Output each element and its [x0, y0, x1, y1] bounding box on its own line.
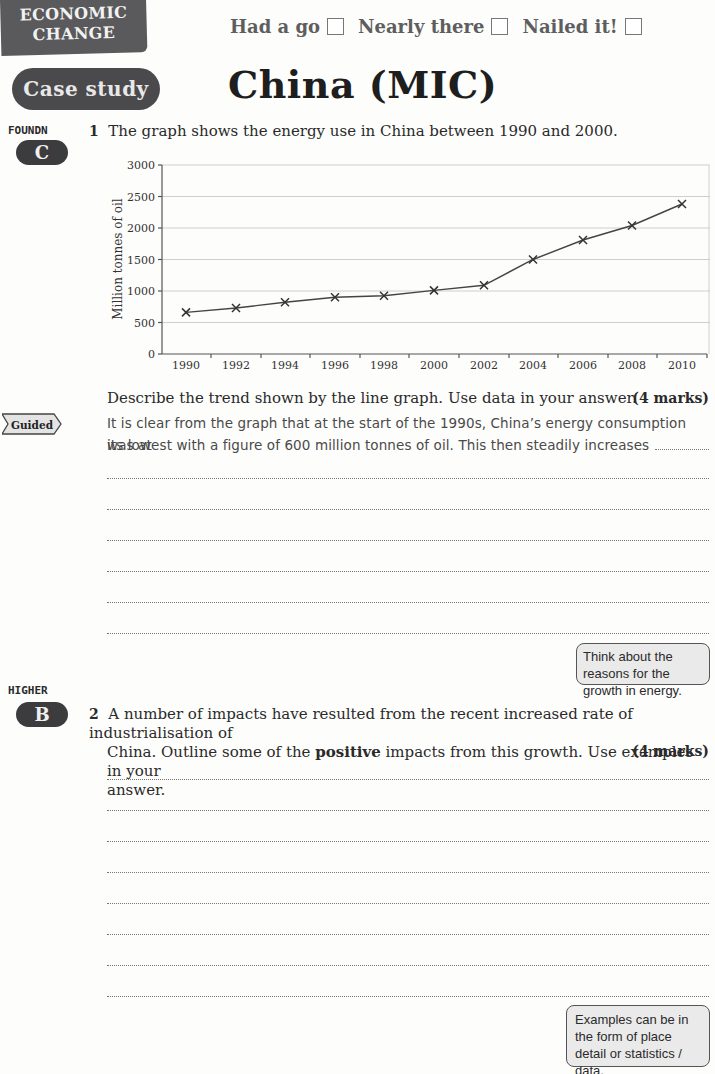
answer-line[interactable]	[107, 872, 709, 873]
svg-text:2500: 2500	[127, 191, 155, 204]
svg-text:1994: 1994	[271, 359, 299, 370]
level-label-higher: HIGHER	[8, 684, 48, 697]
x-tick-labels: 1990 1992 1994 1996 1998 2000 2002 2004 …	[172, 359, 696, 370]
section-tab: ECONOMIC CHANGE	[0, 0, 147, 56]
answer-line[interactable]	[107, 571, 709, 572]
answer-line[interactable]	[107, 810, 709, 811]
svg-text:1998: 1998	[370, 359, 398, 370]
progress-nailed-it: Nailed it!	[522, 16, 641, 37]
svg-text:2000: 2000	[127, 222, 155, 235]
answer-line[interactable]	[655, 434, 709, 450]
question2-text-line1: A number of impacts have resulted from t…	[89, 705, 633, 742]
grade-badge-b: B	[16, 702, 68, 727]
marks-label: (4 marks)	[632, 743, 709, 759]
nailed-it-checkbox[interactable]	[625, 18, 642, 35]
chart-gridlines	[162, 165, 710, 323]
had-a-go-checkbox[interactable]	[327, 18, 344, 35]
answer-line[interactable]	[107, 540, 709, 541]
section-tab-line2: CHANGE	[1, 22, 147, 46]
energy-line-chart: 0 500 1000 1500 2000 2500 3000 Million t…	[100, 155, 715, 370]
svg-text:2002: 2002	[470, 359, 498, 370]
answer-line[interactable]	[107, 996, 709, 997]
grade-badge-c: C	[16, 140, 68, 165]
progress-tracker: Had a go Nearly there Nailed it!	[230, 16, 656, 37]
emphasis-positive: positive	[315, 743, 381, 761]
guided-answer-line-2: its lowest with a figure of 600 million …	[107, 434, 709, 456]
progress-label: Nearly there	[358, 16, 484, 37]
svg-text:2006: 2006	[569, 359, 597, 370]
hint-box-q1: Think about the reasons for the growth i…	[576, 643, 710, 685]
answer-line[interactable]	[107, 841, 709, 842]
svg-text:1500: 1500	[127, 254, 155, 267]
answer-line[interactable]	[107, 779, 709, 780]
svg-text:2008: 2008	[618, 359, 646, 370]
answer-line[interactable]	[107, 633, 709, 634]
question-number: 2	[89, 706, 99, 722]
guided-answer-text: its lowest with a figure of 600 million …	[107, 434, 649, 456]
marks-label: (4 marks)	[632, 390, 709, 406]
progress-label: Nailed it!	[522, 16, 617, 37]
answer-line[interactable]	[107, 934, 709, 935]
hint-box-q2: Examples can be in the form of place det…	[566, 1005, 710, 1067]
chart-axes	[158, 165, 707, 358]
y-tick-labels: 0 500 1000 1500 2000 2500 3000	[127, 159, 155, 361]
svg-text:2004: 2004	[519, 359, 547, 370]
progress-had-a-go: Had a go	[230, 16, 344, 37]
level-label-foundation: FOUNDN	[8, 124, 48, 137]
page-title: China (MIC)	[228, 62, 497, 107]
question2-prompt: 2 A number of impacts have resulted from…	[89, 705, 711, 800]
progress-nearly-there: Nearly there	[358, 16, 508, 37]
svg-text:1000: 1000	[127, 285, 155, 298]
svg-text:2000: 2000	[420, 359, 448, 370]
question2-text-line3: answer.	[89, 781, 711, 800]
svg-text:1992: 1992	[222, 359, 250, 370]
guided-badge: Guided	[2, 413, 62, 435]
answer-line[interactable]	[107, 602, 709, 603]
svg-text:1996: 1996	[321, 359, 349, 370]
answer-line[interactable]	[107, 903, 709, 904]
answer-line[interactable]	[107, 965, 709, 966]
nearly-there-checkbox[interactable]	[491, 18, 508, 35]
y-axis-label: Million tonnes of oil	[111, 198, 125, 320]
svg-text:500: 500	[134, 317, 155, 330]
svg-text:1990: 1990	[172, 359, 200, 370]
case-study-badge: Case study	[12, 68, 160, 110]
answer-line[interactable]	[107, 478, 709, 479]
question1-prompt: 1 The graph shows the energy use in Chin…	[89, 122, 618, 141]
progress-label: Had a go	[230, 16, 320, 37]
data-line	[186, 204, 682, 312]
answer-line[interactable]	[107, 509, 709, 510]
svg-text:0: 0	[148, 348, 155, 361]
question1-instruction: Describe the trend shown by the line gra…	[107, 389, 637, 408]
question1-text: The graph shows the energy use in China …	[108, 122, 617, 140]
question-number: 1	[89, 123, 99, 139]
svg-text:Guided: Guided	[11, 419, 54, 431]
svg-text:2010: 2010	[668, 359, 696, 370]
question2-text-line2: China. Outline some of the	[107, 743, 315, 761]
svg-text:3000: 3000	[127, 159, 155, 172]
data-markers	[182, 200, 686, 316]
section-tab-line1: ECONOMIC	[0, 2, 146, 26]
